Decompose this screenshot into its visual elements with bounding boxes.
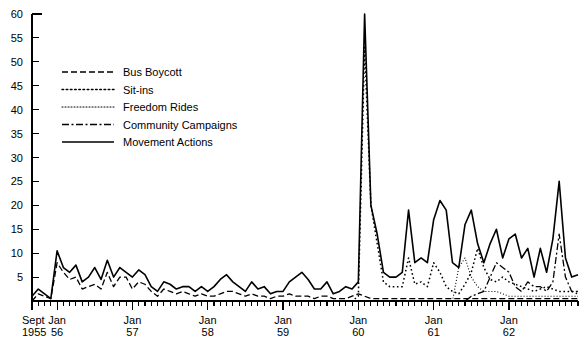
x-axis-label: Jan [349,314,367,326]
series-line-1 [32,47,578,301]
x-axis-label-year: 60 [352,326,364,338]
y-tick-label: 50 [11,56,23,68]
x-axis-label-year: 56 [51,326,63,338]
y-tick-label: 35 [11,128,23,140]
x-axis-label-year: 59 [277,326,289,338]
y-tick-label: 40 [11,104,23,116]
legend-label-2: Freedom Rides [123,101,199,113]
chart-canvas: 51015202530354045505560Sept1955Jan56Jan5… [0,0,585,339]
x-axis-label: Sept [22,314,45,326]
series-line-2 [32,258,578,301]
y-tick-label: 45 [11,80,23,92]
x-axis-label-year: 1955 [22,326,46,338]
x-axis-label-year: 61 [428,326,440,338]
y-tick-label: 55 [11,32,23,44]
x-axis-label: Jan [124,314,142,326]
x-axis-label: Jan [199,314,217,326]
legend-label-0: Bus Boycott [123,66,182,78]
y-tick-label: 15 [11,223,23,235]
x-axis-label: Jan [425,314,443,326]
x-axis-label-year: 57 [126,326,138,338]
y-tick-label: 5 [17,271,23,283]
legend-label-1: Sit-ins [123,84,154,96]
x-axis-label: Jan [500,314,518,326]
x-axis-label-year: 62 [503,326,515,338]
y-tick-label: 30 [11,152,23,164]
x-axis-label-year: 58 [202,326,214,338]
axis-frame [32,14,578,301]
x-axis-label: Jan [48,314,66,326]
legend-label-3: Community Campaigns [123,119,238,131]
series-line-3 [32,234,578,301]
legend-label-4: Movement Actions [123,136,213,148]
line-chart: 51015202530354045505560Sept1955Jan56Jan5… [0,0,585,339]
y-tick-label: 25 [11,175,23,187]
series-line-4 [32,14,578,299]
y-tick-label: 20 [11,199,23,211]
x-axis-label: Jan [274,314,292,326]
y-tick-label: 10 [11,247,23,259]
y-tick-label: 60 [11,8,23,20]
